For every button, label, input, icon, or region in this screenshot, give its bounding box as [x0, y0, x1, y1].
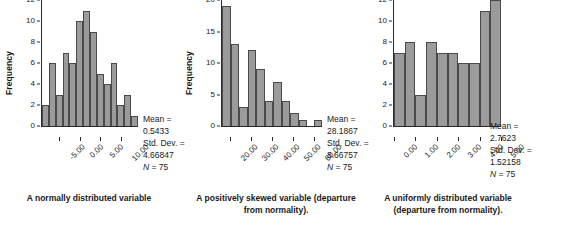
stats-panel-1: Mean = 0.5433 Std. Dev. = 4.66847 N = 75 [143, 113, 185, 173]
stats-n-label-2: N [327, 162, 333, 172]
stats-n-label-3: N [490, 169, 496, 179]
histogram-bar [239, 107, 248, 126]
y-tick-label: 2 [383, 101, 387, 109]
stats-sd-label-2: Std. Dev. = [327, 137, 369, 149]
y-tick-mark [389, 105, 392, 106]
y-tick-label: 10 [206, 59, 215, 67]
histogram-bar [76, 21, 83, 126]
y-tick-label: 10 [378, 17, 387, 25]
histogram-bar [299, 120, 308, 126]
stats-mean-label-2: Mean = [327, 113, 369, 125]
y-tick-mark [217, 126, 220, 127]
stats-panel-2: Mean = 28.1867 Std. Dev. = 8.66757 N = 7… [327, 113, 369, 173]
x-tick-mark [415, 137, 416, 141]
histogram-bar [273, 82, 282, 126]
histogram-bar [131, 116, 138, 127]
y-tick-label: 10 [26, 17, 35, 25]
x-tick-mark [59, 137, 60, 141]
histogram-bar [248, 50, 257, 126]
stats-mean-value-1: 0.5433 [143, 125, 185, 137]
x-tick-mark [230, 137, 231, 141]
histogram-bar [231, 44, 240, 126]
y-tick-mark [37, 105, 40, 106]
x-tick-mark [251, 137, 252, 141]
x-tick-label: 20.00 [240, 143, 260, 163]
bars-panel-3 [394, 0, 501, 126]
stats-mean-value-2: 28.1867 [327, 125, 369, 137]
histogram-bar [480, 11, 491, 127]
y-axis-label-panel-2: Frequency [182, 10, 196, 136]
caption-panel-2: A positively skewed variable (departure … [190, 192, 362, 217]
x-axis-ticks-panel-2: 20.0030.0040.0050.0060.00 [222, 137, 322, 167]
y-tick-mark [389, 126, 392, 127]
y-tick-mark [37, 42, 40, 43]
histogram-bar [437, 53, 448, 127]
panel-normal-distribution: Frequency 024681012 -5.000.005.0010.00 M… [0, 0, 190, 236]
histogram-bar [394, 53, 405, 127]
y-tick-mark [37, 63, 40, 64]
y-tick-mark [389, 84, 392, 85]
axes-panel-1 [41, 0, 138, 127]
y-tick-mark [37, 84, 40, 85]
histogram-bar [117, 105, 124, 126]
x-tick-label: 3.00 [467, 143, 484, 160]
y-tick-label: 12 [26, 0, 35, 4]
histogram-bar [458, 63, 469, 126]
y-tick-label: 4 [31, 80, 35, 88]
y-tick-label: 5 [211, 91, 215, 99]
histogram-bar [290, 113, 299, 126]
bars-panel-2 [222, 0, 322, 126]
x-tick-label: -5.00 [68, 143, 87, 162]
stats-sd-value-3: 1.52158 [490, 156, 532, 168]
y-axis-ticks-panel-1: 024681012 [16, 0, 40, 126]
histogram-bar [111, 63, 118, 126]
y-tick-mark [389, 63, 392, 64]
histogram-bar [469, 63, 480, 126]
y-tick-label: 4 [383, 80, 387, 88]
x-tick-label: 2.00 [445, 143, 462, 160]
histogram-bar [265, 101, 274, 126]
y-axis-ticks-panel-3: 024681012 [368, 0, 392, 126]
stats-n-value-3: = 75 [499, 169, 516, 179]
stats-n-2: N = 75 [327, 161, 369, 173]
y-tick-mark [37, 126, 40, 127]
histogram-bar [56, 95, 63, 127]
y-axis-label-panel-1: Frequency [2, 10, 16, 136]
x-tick-mark [80, 137, 81, 141]
x-tick-mark [100, 137, 101, 141]
y-tick-label: 2 [31, 101, 35, 109]
y-tick-mark [389, 0, 392, 1]
y-tick-mark [217, 31, 220, 32]
x-tick-label: 50.00 [303, 143, 323, 163]
stats-sd-value-2: 8.66757 [327, 149, 369, 161]
histogram-bar [415, 95, 426, 127]
histogram-bar [222, 6, 231, 126]
x-tick-mark [272, 137, 273, 141]
y-tick-mark [217, 0, 220, 1]
histogram-bar [83, 11, 90, 127]
histogram-bar [63, 53, 70, 127]
x-tick-mark [293, 137, 294, 141]
y-tick-label: 6 [383, 59, 387, 67]
stats-n-value-1: = 75 [152, 162, 169, 172]
bars-panel-1 [42, 0, 138, 126]
x-tick-label: 1.00 [424, 143, 441, 160]
y-tick-label: 8 [383, 38, 387, 46]
x-tick-label: 30.00 [261, 143, 281, 163]
panel-uniform-distribution: 024681012 0.001.002.003.004.005.00 Mean … [368, 0, 561, 236]
axes-panel-3 [393, 0, 501, 127]
histogram-bar [104, 84, 111, 126]
stats-sd-value-1: 4.66847 [143, 149, 185, 161]
histogram-bar [426, 42, 437, 126]
caption-panel-3: A uniformly distributed variable (depart… [380, 192, 516, 217]
x-tick-mark [121, 137, 122, 141]
histogram-bar [405, 42, 416, 126]
x-tick-label: 40.00 [282, 143, 302, 163]
histogram-bar [42, 105, 49, 126]
y-tick-mark [217, 63, 220, 64]
histogram-bar [448, 53, 459, 127]
caption-panel-1: A normally distributed variable [14, 192, 164, 204]
panel-skewed-distribution: Frequency 05101520 20.0030.0040.0050.006… [180, 0, 376, 236]
histogram-figure: Frequency 024681012 -5.000.005.0010.00 M… [0, 0, 561, 236]
y-tick-mark [389, 21, 392, 22]
